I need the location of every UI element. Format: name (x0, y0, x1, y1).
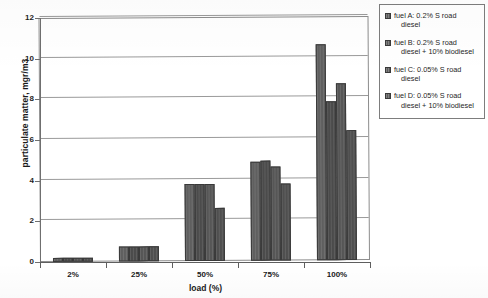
bar-50pct-series-3 (215, 208, 226, 261)
y-tick-mark-2 (35, 221, 40, 222)
bar-75pct-series-2 (270, 167, 281, 261)
x-tick-label-2pct: 2% (40, 270, 106, 279)
legend-label-3: fuel D: 0.05% S roaddiesel + 10% biodies… (394, 91, 474, 110)
bar-75pct-series-1 (260, 161, 271, 261)
y-tick-mark-12 (35, 18, 40, 19)
bar-100pct-series-0 (315, 45, 327, 261)
legend-label-2: fuel C: 0.05% S roaddiesel (394, 65, 461, 84)
x-tick-mark-4 (304, 263, 305, 268)
bar-25pct-series-0 (118, 246, 128, 261)
x-tick-label-75pct: 75% (238, 270, 304, 279)
x-tick-mark-end (370, 263, 371, 268)
y-axis-title: particulate matter, mgr/m3 (20, 18, 30, 208)
x-tick-label-50pct: 50% (172, 270, 238, 279)
bar-25pct-series-2 (139, 246, 149, 261)
legend-item-3[interactable]: fuel D: 0.05% S roaddiesel + 10% biodies… (385, 91, 480, 110)
x-tick-mark-3 (238, 263, 239, 268)
y-tick-mark-4 (35, 181, 40, 182)
bar-50pct-series-0 (184, 184, 195, 261)
legend-swatch-icon-3 (385, 93, 391, 99)
chart-legend: fuel A: 0.2% S roaddieselfuel B: 0.2% S … (379, 4, 485, 119)
y-axis-line (40, 18, 41, 263)
legend-swatch-icon-1 (385, 40, 391, 46)
legend-swatch-icon-0 (385, 13, 391, 19)
x-tick-mark-0 (40, 263, 41, 268)
legend-label-0: fuel A: 0.2% S roaddiesel (394, 11, 456, 30)
x-tick-label-100pct: 100% (304, 270, 370, 279)
legend-item-0[interactable]: fuel A: 0.2% S roaddiesel (385, 11, 480, 30)
y-tick-label-2: 2 (4, 217, 34, 225)
legend-items: fuel A: 0.2% S roaddieselfuel B: 0.2% S … (385, 11, 480, 110)
chart-figure: 024681012 particulate matter, mgr/m3 loa… (0, 0, 488, 298)
legend-swatch-icon-2 (385, 67, 391, 73)
bar-100pct-series-2 (336, 83, 347, 260)
bar-25pct-series-1 (129, 246, 139, 261)
bar-75pct-series-3 (281, 183, 292, 260)
bar-series-group (39, 16, 370, 262)
bar-100pct-series-3 (346, 130, 357, 260)
x-tick-label-25pct: 25% (106, 270, 172, 279)
y-tick-mark-10 (35, 59, 40, 60)
x-axis-title: load (%) (40, 283, 371, 293)
bar-75pct-series-0 (250, 162, 261, 261)
x-tick-mark-1 (106, 263, 107, 268)
x-axis-line (40, 262, 371, 263)
legend-item-1[interactable]: fuel B: 0.2% S roaddiesel + 10% biodiese… (385, 38, 480, 57)
y-tick-label-0: 0 (4, 258, 34, 266)
legend-item-2[interactable]: fuel C: 0.05% S roaddiesel (385, 65, 480, 84)
legend-label-1: fuel B: 0.2% S roaddiesel + 10% biodiese… (394, 38, 474, 57)
y-tick-mark-6 (35, 140, 40, 141)
bar-50pct-series-1 (194, 184, 205, 261)
bar-50pct-series-2 (205, 184, 216, 261)
y-tick-mark-8 (35, 99, 40, 100)
bar-25pct-series-3 (149, 247, 159, 262)
x-tick-mark-2 (172, 263, 173, 268)
